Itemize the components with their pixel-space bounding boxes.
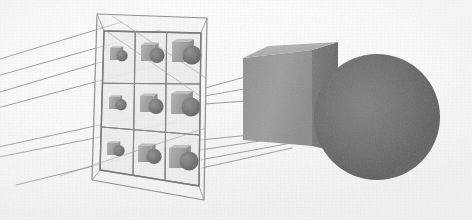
figure-canvas <box>0 0 472 220</box>
perspective-projection-figure: Perspective projection of a scene onto a… <box>0 0 472 220</box>
scan-grain-layer <box>0 0 472 220</box>
